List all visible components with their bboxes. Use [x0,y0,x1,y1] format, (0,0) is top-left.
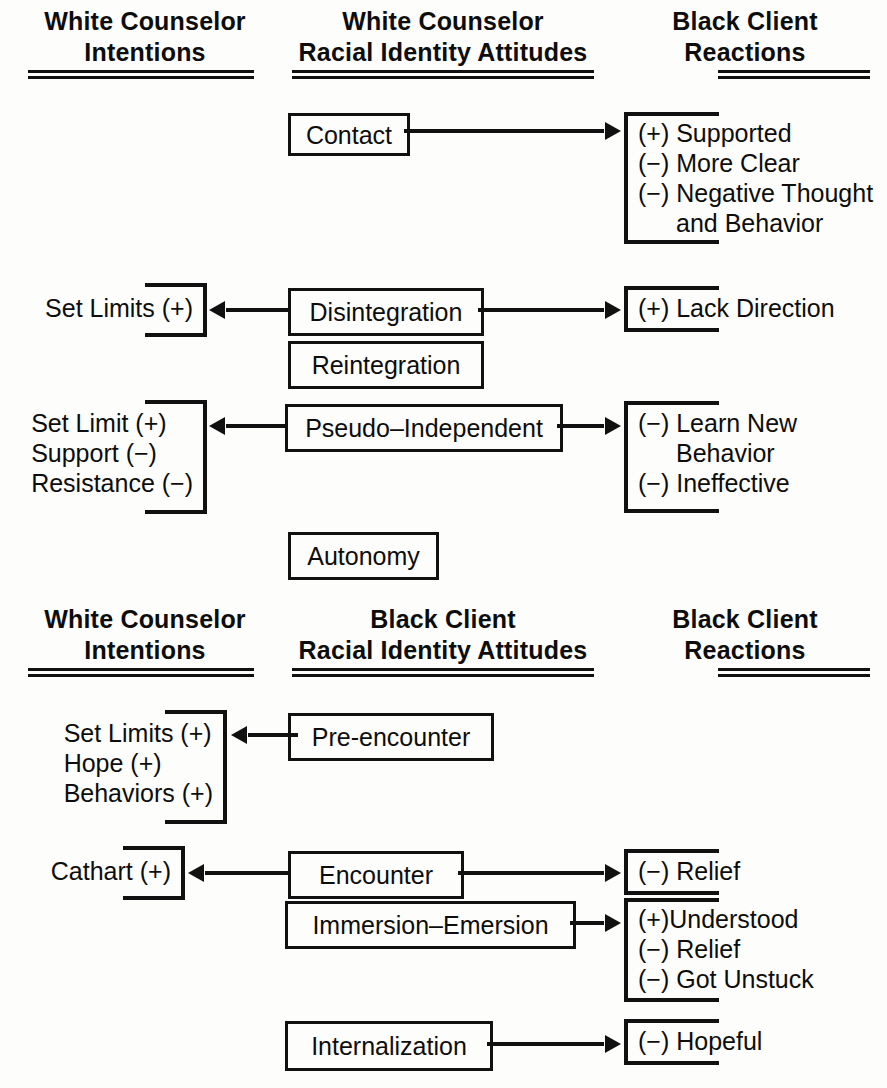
arrow-immersion-to-reactions [570,921,604,925]
intention-list-encounter: Cathart (+) [51,856,171,886]
panel2-header-left-rule [28,668,254,677]
intention-item: Set Limits (+) [45,293,193,323]
panel1-header-right-rule [718,70,870,79]
bracket-stub-bottom [624,1061,719,1065]
reaction-item: (−) Negative Thought [638,178,873,208]
arrow-pseudo-to-intentions [226,424,286,428]
reaction-item: (−) Learn New [638,408,797,438]
intention-item: Behaviors (+) [64,778,213,808]
stage-box-autonomy[interactable]: Autonomy [288,532,439,580]
panel2-header-right-line1: Black Client [625,604,865,635]
bracket-edge [624,286,628,332]
reaction-item: (−) Ineffective [638,468,797,498]
panel1-header-right: Black Client Reactions [625,6,865,68]
panel1-header-center-line1: White Counselor [288,6,598,37]
intention-list-pre-encounter: Set Limits (+) Hope (+) Behaviors (+) [64,718,213,808]
arrow-disintegration-to-reactions [478,308,604,312]
intention-bracket-encounter: Cathart (+) [97,846,185,900]
reaction-item: (−) Got Unstuck [638,964,814,994]
reaction-bracket-pseudo-independent: (−) Learn New Behavior (−) Ineffective [624,401,874,513]
intention-bracket-disintegration: Set Limits (+) [97,283,207,337]
reaction-bracket-disintegration: (+) Lack Direction [624,286,874,332]
panel2-header-left-line2: Intentions [20,635,270,666]
panel2-header-right: Black Client Reactions [625,604,865,666]
stage-box-immersion-emersion-label: Immersion–Emersion [312,911,548,939]
stage-box-reintegration[interactable]: Reintegration [288,341,484,389]
stage-box-pseudo-independent-label: Pseudo–Independent [305,414,543,442]
panel1-header-left: White Counselor Intentions [20,6,270,68]
reaction-list-contact: (+) Supported (−) More Clear (−) Negativ… [638,118,873,238]
bracket-stub-top [145,400,207,404]
panel2-header-center: Black Client Racial Identity Attitudes [288,604,598,666]
bracket-edge [624,112,628,244]
reaction-list-pseudo-independent: (−) Learn New Behavior (−) Ineffective [638,408,797,498]
bracket-stub-bottom [145,510,207,514]
reaction-list-internalization: (−) Hopeful [638,1026,762,1056]
stage-box-disintegration[interactable]: Disintegration [288,288,484,336]
bracket-edge [624,1019,628,1065]
intention-item: Resistance (−) [31,468,193,498]
bracket-stub-bottom [624,998,719,1002]
arrow-contact-to-reactions [404,129,604,133]
panel2-header-left: White Counselor Intentions [20,604,270,666]
stage-box-autonomy-label: Autonomy [307,542,420,570]
stage-box-internalization[interactable]: Internalization [285,1021,493,1071]
intention-bracket-pre-encounter: Set Limits (+) Hope (+) Behaviors (+) [97,710,227,824]
reaction-bracket-contact: (+) Supported (−) More Clear (−) Negativ… [624,112,874,244]
reaction-list-disintegration: (+) Lack Direction [638,293,835,323]
bracket-stub-bottom [624,240,719,244]
reaction-item: (−) Hopeful [638,1026,762,1056]
bracket-edge [624,401,628,513]
bracket-stub-top [624,849,719,853]
panel1-header-center: White Counselor Racial Identity Attitude… [288,6,598,68]
intention-item: Set Limits (+) [64,718,213,748]
stage-box-reintegration-label: Reintegration [312,351,461,379]
reaction-item: Behavior [638,438,797,468]
reaction-item: (+)Understood [638,904,814,934]
intention-item: Cathart (+) [51,856,171,886]
intention-item: Hope (+) [64,748,213,778]
bracket-stub-bottom [624,509,719,513]
reaction-item: and Behavior [638,208,873,238]
reaction-item: (−) More Clear [638,148,873,178]
bracket-stub-top [624,898,719,902]
bracket-edge [181,846,185,900]
reaction-list-encounter: (−) Relief [638,856,740,886]
reaction-bracket-immersion-emersion: (+)Understood (−) Relief (−) Got Unstuck [624,898,874,1002]
panel2-header-right-line2: Reactions [625,635,865,666]
stage-box-pre-encounter[interactable]: Pre-encounter [288,713,494,761]
bracket-stub-top [165,710,227,714]
panel1-header-center-line2: Racial Identity Attitudes [288,37,598,68]
bracket-stub-bottom [145,333,207,337]
bracket-stub-top [624,401,719,405]
stage-box-encounter[interactable]: Encounter [288,851,464,899]
reaction-bracket-internalization: (−) Hopeful [624,1019,874,1065]
panel2-header-center-line1: Black Client [288,604,598,635]
panel1-header-right-line2: Reactions [625,37,865,68]
bracket-stub-top [624,112,719,116]
arrow-encounter-to-reactions [458,871,604,875]
bracket-stub-top [624,286,719,290]
stage-box-encounter-label: Encounter [319,861,433,889]
bracket-stub-top [624,1019,719,1023]
panel1-header-left-line2: Intentions [20,37,270,68]
panel1-header-left-rule [28,70,254,79]
arrow-disintegration-to-intentions [226,308,288,312]
bracket-edge [624,849,628,895]
stage-box-contact[interactable]: Contact [288,113,410,156]
bracket-stub-bottom [624,891,719,895]
reaction-item: (+) Lack Direction [638,293,835,323]
bracket-stub-top [145,283,207,287]
panel1-header-center-rule [292,70,594,79]
reaction-bracket-encounter: (−) Relief [624,849,874,895]
stage-box-internalization-label: Internalization [311,1032,467,1060]
panel2-header-center-line2: Racial Identity Attitudes [288,635,598,666]
panel2-header-right-rule [718,668,870,677]
stage-box-contact-label: Contact [306,121,392,149]
panel2-header-left-line1: White Counselor [20,604,270,635]
stage-box-disintegration-label: Disintegration [310,298,463,326]
intention-list-disintegration: Set Limits (+) [45,293,193,323]
bracket-stub-top [123,846,185,850]
stage-box-immersion-emersion[interactable]: Immersion–Emersion [285,901,576,949]
stage-box-pseudo-independent[interactable]: Pseudo–Independent [285,404,563,452]
